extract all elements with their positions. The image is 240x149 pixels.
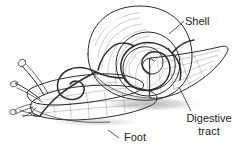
snail-anatomy-figure: Shell Digestive tract Foot — [0, 0, 240, 149]
label-shell: Shell — [185, 15, 209, 27]
snail-shell — [88, 6, 192, 100]
label-digestive-tract-line1: Digestive — [186, 112, 231, 124]
leader-line-foot — [108, 130, 119, 138]
label-digestive-tract-line2: tract — [198, 125, 219, 137]
snail-illustration: Shell Digestive tract Foot — [0, 0, 240, 149]
label-foot: Foot — [124, 131, 146, 143]
shell-spiral-coil — [116, 32, 180, 96]
snail-tentacles — [10, 58, 48, 117]
leader-line-shell — [169, 21, 184, 34]
